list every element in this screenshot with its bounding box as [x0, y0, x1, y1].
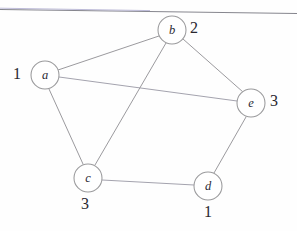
top-horizontal-rule [0, 8, 297, 13]
node-e-weight: 3 [270, 93, 278, 109]
edge-d-e[interactable] [214, 117, 246, 173]
node-e[interactable]: e [237, 89, 265, 117]
edge-a-b[interactable] [58, 36, 159, 70]
node-a[interactable]: a [31, 61, 59, 89]
node-b[interactable]: b [158, 16, 186, 44]
edge-group [49, 36, 246, 185]
figure-canvas: a b c d e 1 2 3 1 3 [0, 0, 297, 231]
node-e-label: e [248, 96, 254, 110]
edge-b-c[interactable] [95, 43, 166, 165]
edge-a-e[interactable] [59, 77, 237, 101]
node-b-weight: 2 [190, 20, 198, 36]
edge-b-e[interactable] [183, 39, 243, 92]
node-d[interactable]: d [194, 172, 222, 200]
edge-c-d[interactable] [102, 180, 194, 185]
edge-a-c[interactable] [49, 89, 83, 164]
node-d-weight: 1 [204, 204, 212, 220]
node-d-label: d [205, 179, 212, 193]
node-c-label: c [85, 171, 91, 185]
node-c-weight: 3 [81, 196, 89, 212]
node-b-label: b [169, 23, 175, 37]
graph-diagram: a b c d e [0, 0, 297, 231]
node-a-weight: 1 [13, 66, 21, 82]
node-a-label: a [42, 68, 48, 82]
node-c[interactable]: c [74, 164, 102, 192]
